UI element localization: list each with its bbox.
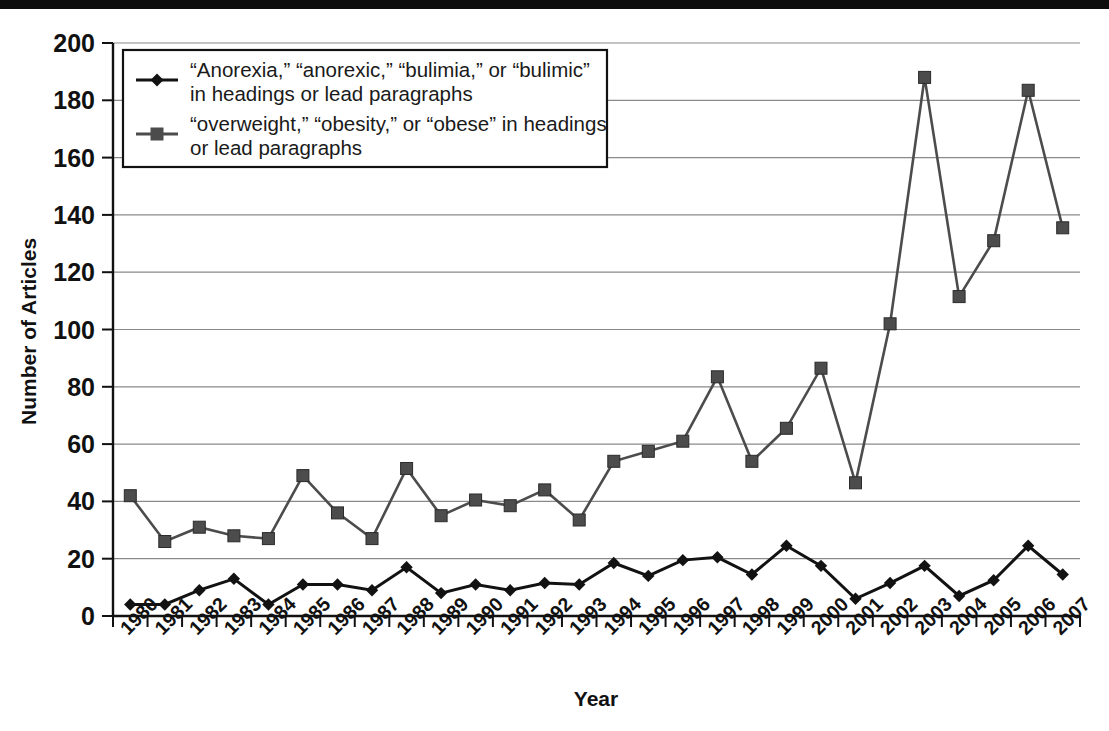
data-point-marker — [815, 362, 827, 374]
data-point-marker — [331, 578, 343, 590]
data-point-marker — [469, 578, 481, 590]
legend-label-eating-disorder-line2: in headings or lead paragraphs — [190, 82, 473, 105]
y-axis-title: Number of Articles — [17, 238, 40, 425]
data-point-marker — [401, 463, 413, 475]
data-point-marker — [642, 445, 654, 457]
y-axis-tick-label: 80 — [67, 373, 95, 401]
data-point-marker — [953, 291, 965, 303]
y-axis-tick-label: 0 — [81, 602, 95, 630]
y-axis-ticks — [102, 43, 113, 616]
data-point-marker — [538, 577, 550, 589]
data-point-marker — [470, 494, 482, 506]
data-point-marker — [124, 490, 136, 502]
data-point-marker — [1022, 84, 1034, 96]
y-axis-tick-label: 100 — [53, 316, 95, 344]
data-point-marker — [504, 500, 516, 512]
data-point-marker — [297, 578, 309, 590]
y-axis-tick-label: 160 — [53, 144, 95, 172]
y-axis-tick-label: 40 — [67, 487, 95, 515]
data-point-marker — [366, 533, 378, 545]
legend-label-obesity-line1: “overweight,” “obesity,” or “obese” in h… — [190, 112, 607, 135]
legend-label-eating-disorder-line1: “Anorexia,” “anorexic,” “bulimia,” or “b… — [190, 58, 590, 81]
data-point-marker — [988, 235, 1000, 247]
data-point-marker — [435, 510, 447, 522]
x-axis-title: Year — [574, 687, 618, 710]
chart-legend: “Anorexia,” “anorexic,” “bulimia,” or “b… — [123, 50, 607, 167]
y-axis-tick-label: 140 — [53, 201, 95, 229]
data-point-marker — [573, 514, 585, 526]
y-axis-tick-label: 20 — [67, 545, 95, 573]
y-axis-tick-label: 180 — [53, 86, 95, 114]
data-point-marker — [262, 533, 274, 545]
data-point-marker — [193, 521, 205, 533]
legend-label-obesity-line2: or lead paragraphs — [190, 136, 362, 159]
data-point-marker — [504, 584, 516, 596]
data-point-marker — [884, 577, 896, 589]
data-point-marker — [193, 584, 205, 596]
data-point-marker — [919, 71, 931, 83]
data-point-marker — [608, 455, 620, 467]
y-axis-tick-labels: 020406080100120140160180200 — [53, 29, 95, 630]
chart-canvas: 020406080100120140160180200 198019811982… — [0, 0, 1109, 731]
y-axis-tick-label: 120 — [53, 258, 95, 286]
data-point-marker — [711, 551, 723, 563]
data-point-marker — [1057, 222, 1069, 234]
x-axis-tick-label: 2007 — [1048, 593, 1094, 639]
line-chart-figure: 020406080100120140160180200 198019811982… — [0, 0, 1109, 731]
data-point-marker — [677, 435, 689, 447]
data-point-marker — [539, 484, 551, 496]
legend-marker-square-icon — [151, 128, 164, 141]
data-point-marker — [884, 318, 896, 330]
y-axis-tick-label: 60 — [67, 430, 95, 458]
y-axis-tick-label: 200 — [53, 29, 95, 57]
data-point-marker — [228, 530, 240, 542]
data-point-marker — [297, 470, 309, 482]
data-point-marker — [746, 455, 758, 467]
data-point-marker — [850, 477, 862, 489]
data-point-marker — [642, 570, 654, 582]
data-point-marker — [780, 422, 792, 434]
data-point-marker — [332, 507, 344, 519]
data-point-marker — [677, 554, 689, 566]
data-point-marker — [711, 371, 723, 383]
data-point-marker — [159, 536, 171, 548]
